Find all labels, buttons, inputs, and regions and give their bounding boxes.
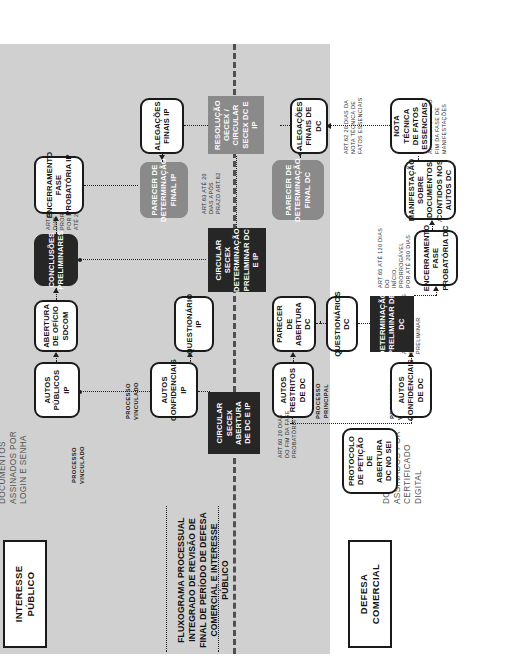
node-questionario-ip[interactable]: QUESTIONÁRIO IP [174, 296, 214, 352]
connector-circular-to-confidenciais-ip [198, 391, 210, 392]
node-circular-secex-abertura[interactable]: CIRCULAR SECEX ABERTURA DE DC E IP [208, 392, 260, 454]
arrowhead-to-alegacoes-dc [326, 123, 331, 129]
node-abertura-oficio-sdcom[interactable]: ABERTURA DE OFÍCIO SDCOM [34, 300, 78, 352]
note-art65-dc-text: ART.65 ATÉ 120 DIAS DO INÍCIO, PRORROGÁV… [377, 227, 411, 287]
node-autos-publicos-ip[interactable]: AUTOS PÚBLICOS IP [34, 362, 80, 418]
node-alegacoes-finais-ip-label: ALEGAÇÕES FINAIS IP [153, 101, 172, 150]
junction-dot-conclusoes [78, 258, 82, 262]
connector-protocolo-split [290, 423, 412, 424]
header-defesa-comercial: DEFESA COMERCIAL [348, 540, 392, 648]
note-art65-dc: ART.65 ATÉ 120 DIAS DO INÍCIO, PRORROGÁV… [370, 224, 412, 288]
note-art62: ART.62 20 DIAS DA NOTA TÉCNICA DE FATOS … [336, 94, 364, 154]
flowlabel-processo-vinculado-ip2-text: PROCESSO VINCULADO [71, 445, 84, 483]
node-circular-secex-preliminar-label: CIRCULAR SECEX DETERMINAÇÃO PRELIMINAR D… [214, 228, 260, 292]
node-autos-confidenciais-ip-label: AUTOS CONFIDENCIAIS IP [160, 359, 188, 421]
node-parecer-determinacao-final-dc-label: PARECER DE DETERMINAÇÃO FINAL DC [284, 158, 312, 222]
connector-alegacoes-parecer [280, 125, 292, 126]
sidenote-login-senha-text: DOCUMENTOS ASSINADOS POR LOGIN E SENHA [0, 431, 28, 504]
arrowhead-to-encerramento-dc [433, 286, 439, 291]
node-questionarios-dc[interactable]: QUESTIONÁRIOS DC [326, 296, 358, 352]
node-alegacoes-finais-dc-label: ALEGAÇÕES FINAIS DE DC [295, 101, 323, 150]
node-manifestacao-documentos-dc-label: MANIFESTAÇÃO SOBRE DOCUMENTOS CONTIDOS N… [407, 158, 453, 220]
node-abertura-oficio-sdcom-label: ABERTURA DE OFÍCIO SDCOM [42, 304, 70, 348]
connector-encerramento-ip-down [84, 185, 138, 186]
arrowhead-to-abertura-sdcom [53, 352, 59, 357]
connector-protocolo-to-confidenciais [411, 416, 412, 424]
node-parecer-determinacao-final-dc[interactable]: PARECER DE DETERMINAÇÃO FINAL DC [272, 160, 324, 220]
flowlabel-processo-principal-text: PROCESSO PRINCIPAL [315, 382, 328, 418]
connector-parecer-down [316, 323, 328, 324]
node-determinacao-preliminar-dc-label: DETERMINAÇÃO PRELIMINAR DE DC [378, 292, 406, 356]
node-parecer-determinacao-final-ip[interactable]: PARECER DE DETERMINAÇÃO FINAL IP [140, 162, 188, 218]
arrowhead-to-determinacao-preliminar [408, 352, 414, 357]
diagram-rotation-wrapper: DEFESA COMERCIAL INTERESSE PÚBLICO FLUXO… [0, 44, 440, 654]
node-protocolo-peticao-label: PROTOCOLO DE PETIÇÃO DE ABERTURA DC NO S… [347, 433, 393, 489]
connector-circular-preliminar-to-resolucao [236, 156, 237, 228]
header-interesse-publico: INTERESSE PÚBLICO [3, 540, 47, 648]
title-bracket-top [166, 506, 167, 652]
connector-questionarios-determinacao [358, 323, 370, 324]
junction-dot-autos-publicos [78, 390, 82, 394]
node-nota-tecnica-fatos[interactable]: NOTA TÉCNICA DE FATOS ESSENCIAIS [390, 98, 432, 154]
note-art60-ip: ART.60 20 DIAS DO FIM DA FASE PROBATÓRIA [270, 404, 298, 458]
node-autos-confidenciais-dc[interactable]: AUTOS CONFIDENCIAIS DE DC [390, 362, 432, 418]
node-alegacoes-finais-ip[interactable]: ALEGAÇÕES FINAIS IP [140, 98, 184, 154]
header-defesa-comercial-label: DEFESA COMERCIAL [358, 563, 382, 623]
chart-title: FLUXOGRAMA PROCESSUAL INTEGRADO DE REVIS… [176, 506, 231, 654]
node-questionarios-dc-label: QUESTIONÁRIOS DC [333, 291, 352, 357]
connector-manifestacao-nota [418, 156, 419, 160]
arrowhead-to-parecer-abertura [290, 352, 296, 357]
node-conclusoes-preliminares[interactable]: CONCLUSÕES PRELIMINARES [34, 234, 78, 286]
node-determinacao-preliminar-dc[interactable]: DETERMINAÇÃO PRELIMINAR DE DC [370, 296, 414, 352]
arrowhead-to-questionario-ip [187, 352, 193, 357]
node-questionario-ip-label: QUESTIONÁRIO IP [185, 293, 204, 353]
node-autos-confidenciais-dc-label: AUTOS CONFIDENCIAIS DE DC [397, 359, 425, 421]
node-encerramento-fase-probatoria-dc-label: ENCERRAMENTO FASE PROBATÓRIA DC [422, 224, 450, 291]
connector-resolucao-up [184, 125, 208, 126]
arrowhead-to-conclusoes [53, 288, 59, 293]
node-parecer-abertura-dc-label: PARECER DE ABERTURA DC [275, 301, 312, 347]
title-bracket-bottom [218, 506, 219, 652]
connector-determinacao-down [414, 295, 436, 296]
connector-confidenciais-ip-up [80, 391, 152, 392]
connector-nota-alegacoes [328, 125, 390, 126]
header-interesse-publico-label: INTERESSE PÚBLICO [13, 565, 37, 622]
node-conclusoes-preliminares-label: CONCLUSÕES PRELIMINARES [47, 230, 66, 289]
note-art63-ip-text: ART.63 ATÉ 20 DIAS APÓS PRAZO ART.62 [201, 172, 221, 214]
flowlabel-processo-vinculado-ip1: PROCESSO VINCULADO [118, 372, 140, 430]
note-art60-ip-text: ART.60 20 DIAS DO FIM DA FASE PROBATÓRIA [277, 410, 297, 458]
arrowhead-to-encerramento-ip [53, 216, 59, 221]
arrowhead-to-parecer-final-ip [159, 155, 165, 160]
flowchart-page: Imagem – Prazos processuais nas revisões… [0, 0, 522, 669]
arrowhead-to-parecer-final-dc [297, 152, 303, 157]
chart-title-text: FLUXOGRAMA PROCESSUAL INTEGRADO DE REVIS… [176, 512, 230, 648]
flowlabel-processo-vinculado-ip2: PROCESSO VINCULADO [64, 436, 86, 494]
node-circular-secex-abertura-label: CIRCULAR SECEX ABERTURA DE DC E IP [215, 396, 252, 450]
node-resolucao-gecex-label: RESOLUÇÃO GECEX / CIRCULAR SECEX DC E IP [213, 100, 259, 150]
node-circular-secex-preliminar[interactable]: CIRCULAR SECEX DETERMINAÇÃO PRELIMINAR D… [208, 228, 266, 292]
diagram-canvas: DEFESA COMERCIAL INTERESSE PÚBLICO FLUXO… [0, 44, 440, 654]
node-protocolo-peticao[interactable]: PROTOCOLO DE PETIÇÃO DE ABERTURA DC NO S… [342, 428, 398, 494]
flowlabel-processo-vinculado-ip1-text: PROCESSO VINCULADO [125, 381, 138, 419]
node-encerramento-fase-probatoria-ip[interactable]: ENCERRAMENTO FASE PROBATÓRIA IP [34, 156, 84, 214]
node-alegacoes-finais-dc[interactable]: ALEGAÇÕES FINAIS DE DC [290, 98, 328, 154]
node-autos-confidenciais-ip[interactable]: AUTOS CONFIDENCIAIS IP [150, 362, 198, 418]
node-nota-tecnica-fatos-label: NOTA TÉCNICA DE FATOS ESSENCIAIS [392, 102, 429, 149]
sidenote-login-senha: DOCUMENTOS ASSINADOS POR LOGIN E SENHA [0, 372, 30, 504]
node-autos-publicos-ip-label: AUTOS PÚBLICOS IP [43, 367, 71, 413]
arrowhead-to-manifestacao-dc [429, 220, 435, 225]
node-parecer-determinacao-final-ip-label: PARECER DE DETERMINAÇÃO FINAL IP [150, 158, 178, 222]
node-encerramento-fase-probatoria-ip-label: ENCERRAMENTO FASE PROBATÓRIA IP [45, 151, 73, 218]
connector-conclusoes-down [78, 259, 206, 260]
note-art63-ip: ART.63 ATÉ 20 DIAS APÓS PRAZO ART.62 [194, 162, 222, 214]
node-parecer-abertura-dc[interactable]: PARECER DE ABERTURA DC [272, 296, 316, 352]
band-separator-left [233, 458, 236, 654]
node-resolucao-gecex[interactable]: RESOLUÇÃO GECEX / CIRCULAR SECEX DC E IP [208, 96, 264, 154]
node-manifestacao-documentos-dc[interactable]: MANIFESTAÇÃO SOBRE DOCUMENTOS CONTIDOS N… [404, 160, 456, 220]
node-encerramento-fase-probatoria-dc[interactable]: ENCERRAMENTO FASE PROBATÓRIA DC [414, 230, 458, 286]
